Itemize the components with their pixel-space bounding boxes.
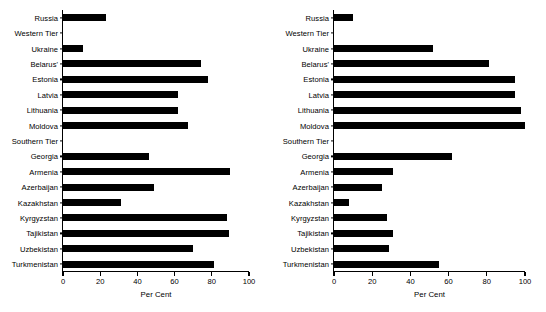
- x-tick: [372, 272, 373, 276]
- bar: [334, 14, 353, 21]
- bar: [334, 168, 393, 175]
- y-tick: [60, 217, 64, 218]
- bar: [334, 230, 393, 237]
- bar-row: Armenia: [334, 164, 525, 179]
- x-tick-label: 0: [61, 277, 65, 286]
- category-label: Armenia: [29, 167, 58, 176]
- bar: [63, 184, 154, 191]
- plot-area-left: RussiaWestern TierUkraineBelarus'Estonia…: [62, 10, 249, 272]
- x-tick: [100, 272, 101, 276]
- category-label: Turkmenistan: [12, 260, 58, 269]
- bar-row: Belarus': [63, 56, 249, 71]
- category-label: Tajikistan: [26, 229, 58, 238]
- x-tick: [62, 272, 63, 276]
- bar: [334, 60, 489, 67]
- bar-row: Turkmenistan: [63, 257, 249, 272]
- bar-row: Turkmenistan: [334, 257, 525, 272]
- x-tick-label: 40: [406, 277, 414, 286]
- y-tick: [60, 125, 64, 126]
- bar-row: Ukraine: [334, 41, 525, 56]
- plot-area-right: RussiaWestern TierUkraineBelarus'Estonia…: [333, 10, 525, 272]
- bar: [63, 168, 230, 175]
- bar-row: Uzbekistan: [63, 241, 249, 256]
- x-axis-right: Per Cent 020406080100: [334, 272, 525, 298]
- y-tick: [331, 33, 335, 34]
- y-tick: [331, 17, 335, 18]
- category-label: Lithuania: [27, 106, 58, 115]
- x-axis-title: Per Cent: [141, 290, 172, 299]
- y-tick: [60, 79, 64, 80]
- category-label: Estonia: [303, 75, 329, 84]
- bar-row: Tajikistan: [334, 226, 525, 241]
- y-tick: [331, 156, 335, 157]
- x-tick-label: 100: [243, 277, 256, 286]
- y-tick: [331, 248, 335, 249]
- x-tick: [524, 272, 525, 276]
- category-label: Kyrgyzstan: [20, 213, 58, 222]
- bar-row: Azerbaijan: [63, 179, 249, 194]
- bar-row: Lithuania: [334, 102, 525, 117]
- bar: [63, 60, 201, 67]
- y-tick: [60, 202, 64, 203]
- category-label: Georgia: [31, 152, 58, 161]
- category-label: Ukraine: [31, 44, 58, 53]
- category-label: Turkmenistan: [283, 260, 329, 269]
- y-tick: [331, 187, 335, 188]
- bar: [63, 153, 149, 160]
- category-label: Moldova: [300, 121, 329, 130]
- bar-row: Moldova: [334, 118, 525, 133]
- bar-row: Armenia: [63, 164, 249, 179]
- bar: [334, 245, 389, 252]
- category-label: Uzbekistan: [20, 244, 58, 253]
- category-label: Southern Tier: [12, 136, 58, 145]
- y-tick: [60, 110, 64, 111]
- category-label: Western Tier: [14, 29, 58, 38]
- bar-row: Tajikistan: [63, 226, 249, 241]
- y-tick: [331, 202, 335, 203]
- category-label: Azerbaijan: [293, 183, 329, 192]
- bar: [63, 45, 83, 52]
- category-label: Armenia: [300, 167, 329, 176]
- bar: [334, 76, 515, 83]
- bar-row: Kyrgyzstan: [63, 210, 249, 225]
- bar-row: Azerbaijan: [334, 179, 525, 194]
- bar: [63, 230, 229, 237]
- bar-row: Estonia: [63, 72, 249, 87]
- y-tick: [331, 217, 335, 218]
- bar-row: Latvia: [63, 87, 249, 102]
- bar-row: Kazakhstan: [334, 195, 525, 210]
- x-axis-title: Per Cent: [414, 290, 445, 299]
- chart-panel-left: RussiaWestern TierUkraineBelarus'Estonia…: [0, 0, 273, 312]
- bar: [63, 214, 227, 221]
- bar: [63, 76, 208, 83]
- y-tick: [60, 248, 64, 249]
- y-tick: [60, 94, 64, 95]
- y-tick: [331, 48, 335, 49]
- x-tick: [333, 272, 334, 276]
- y-tick: [60, 233, 64, 234]
- bar: [63, 122, 188, 129]
- bar-row: Kyrgyzstan: [334, 210, 525, 225]
- y-tick: [60, 140, 64, 141]
- x-tick-label: 20: [368, 277, 376, 286]
- x-tick-label: 20: [96, 277, 104, 286]
- x-tick: [486, 272, 487, 276]
- bar-row: Russia: [63, 10, 249, 25]
- category-label: Kazakhstan: [289, 198, 329, 207]
- bar: [334, 153, 452, 160]
- bar: [334, 214, 387, 221]
- category-label: Ukraine: [302, 44, 329, 53]
- x-tick-label: 60: [170, 277, 178, 286]
- x-tick: [211, 272, 212, 276]
- bar-rows-right: RussiaWestern TierUkraineBelarus'Estonia…: [334, 10, 525, 272]
- x-tick: [174, 272, 175, 276]
- bar-row: Latvia: [334, 87, 525, 102]
- bar-row: Ukraine: [63, 41, 249, 56]
- bar-row: Moldova: [63, 118, 249, 133]
- bar-row: Georgia: [334, 149, 525, 164]
- x-tick: [137, 272, 138, 276]
- bar: [334, 45, 433, 52]
- category-label: Latvia: [308, 90, 329, 99]
- y-tick: [60, 33, 64, 34]
- category-label: Lithuania: [298, 106, 329, 115]
